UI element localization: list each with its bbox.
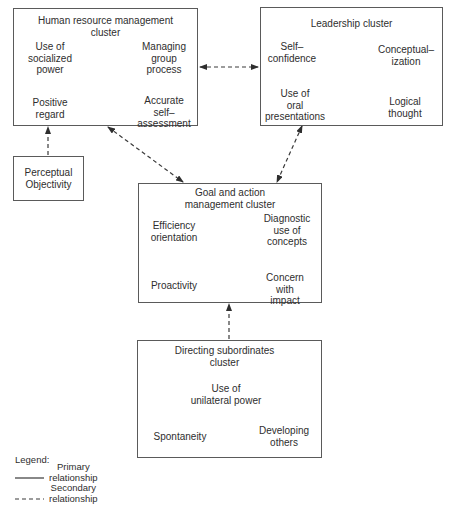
node-positive-regard: Positive regard bbox=[24, 97, 76, 120]
node-conceptualization: Conceptual– ization bbox=[374, 44, 438, 67]
node-efficiency-orientation: Efficiency orientation bbox=[143, 220, 205, 243]
hr-cluster-box: Human resource management cluster Use of… bbox=[13, 8, 198, 126]
node-spontaneity: Spontaneity bbox=[150, 431, 210, 443]
node-proactivity: Proactivity bbox=[143, 280, 205, 292]
node-managing-group-process: Managing group process bbox=[138, 41, 190, 76]
node-use-of-oral-presentations: Use of oral presentations bbox=[259, 88, 331, 123]
node-use-of-unilateral-power: Use of unilateral power bbox=[178, 383, 274, 406]
goal-cluster-box: Goal and action management cluster Effic… bbox=[138, 183, 322, 303]
hr-goal-dashed bbox=[108, 127, 183, 182]
node-logical-thought: Logical thought bbox=[381, 96, 429, 119]
node-accurate-self-assessment: Accurate self– assessment bbox=[132, 95, 196, 130]
directing-cluster-title: Directing subordinates cluster bbox=[128, 345, 321, 369]
legend-secondary-label: Secondary relationship bbox=[49, 482, 98, 504]
goal-cluster-title: Goal and action management cluster bbox=[139, 187, 321, 211]
legend-primary-label: Primary relationship bbox=[49, 461, 98, 483]
leadership-cluster-box: Leadership cluster Self– confidence Conc… bbox=[260, 7, 443, 126]
node-self-confidence: Self– confidence bbox=[265, 41, 319, 64]
hr-cluster-title: Human resource management cluster bbox=[14, 15, 197, 39]
node-concern-with-impact: Concern with impact bbox=[261, 272, 309, 307]
node-diagnostic-use-of-concepts: Diagnostic use of concepts bbox=[259, 213, 315, 248]
leadership-goal-dashed bbox=[277, 126, 302, 182]
node-perceptual-objectivity: Perceptual Objectivity bbox=[14, 167, 83, 190]
node-developing-others: Developing others bbox=[256, 425, 312, 448]
perceptual-objectivity-box: Perceptual Objectivity bbox=[13, 156, 84, 201]
leadership-cluster-title: Leadership cluster bbox=[261, 18, 442, 30]
legend-label: Legend: bbox=[15, 454, 49, 465]
node-use-of-socialized-power: Use of socialized power bbox=[24, 41, 76, 76]
directing-cluster-box: Directing subordinates cluster Use of un… bbox=[137, 340, 322, 458]
